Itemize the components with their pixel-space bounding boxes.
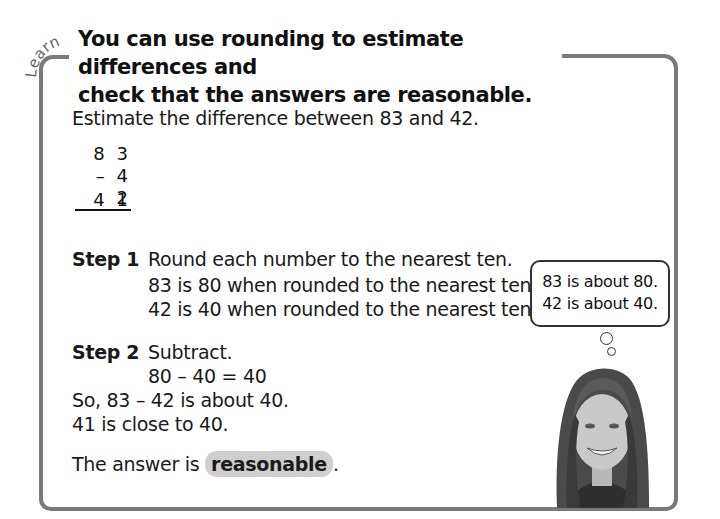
lesson-frame-left: [39, 55, 69, 511]
title-line-2: check that the answers are reasonable.: [78, 81, 568, 109]
answer-statement: The answer is reasonable.: [72, 451, 339, 477]
conclusion-line-2: 41 is close to 40.: [72, 412, 228, 436]
difference: 4 1: [75, 189, 131, 211]
thought-line-1: 83 is about 80.: [532, 271, 668, 293]
minuend: 8 3: [75, 143, 131, 165]
title-line-1: You can use rounding to estimate differe…: [78, 25, 568, 81]
answer-prefix: The answer is: [72, 453, 199, 475]
step2-label: Step 2: [72, 340, 139, 364]
step1-instruction: Round each number to the nearest ten.: [148, 247, 513, 271]
problem-prompt: Estimate the difference between 83 and 4…: [72, 106, 479, 130]
girl-photo: [537, 362, 665, 508]
step2-instruction: Subtract.: [148, 340, 232, 364]
subtrahend: – 4 2: [75, 165, 131, 187]
thought-bubble: 83 is about 80. 42 is about 40.: [530, 260, 670, 327]
vertical-subtraction: 8 3 – 4 2 4 1: [75, 143, 131, 211]
step2-equation: 80 – 40 = 40: [148, 364, 267, 388]
subtraction-rule: [75, 209, 131, 211]
step1-line-1: 83 is 80 when rounded to the nearest ten…: [148, 273, 537, 297]
learn-label-text: Learn: [22, 32, 63, 79]
step1-label: Step 1: [72, 247, 139, 271]
thought-bubble-dot-large: [600, 332, 613, 345]
thought-bubble-dot-small: [607, 347, 616, 356]
learn-section-label: Learn: [14, 26, 84, 86]
lesson-title: You can use rounding to estimate differe…: [78, 25, 568, 109]
step1-line-2: 42 is 40 when rounded to the nearest ten…: [148, 297, 537, 321]
answer-suffix: .: [333, 453, 339, 475]
answer-highlight: reasonable: [205, 451, 333, 477]
conclusion-line-1: So, 83 – 42 is about 40.: [72, 388, 289, 412]
svg-text:Learn: Learn: [22, 32, 63, 79]
thought-line-2: 42 is about 40.: [532, 293, 668, 315]
